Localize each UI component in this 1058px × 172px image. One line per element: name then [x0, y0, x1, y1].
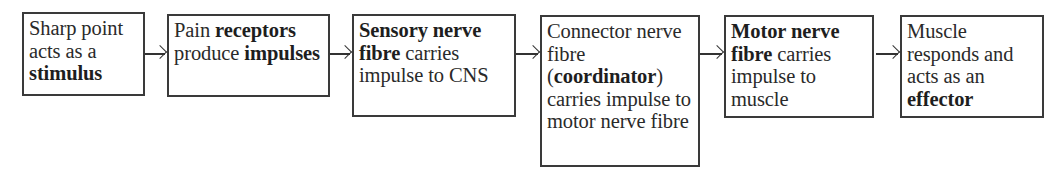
box-text: Muscle responds and acts as an [907, 20, 1013, 87]
box-sensory-nerve: Sensory nerve fibre carries impulse to C… [352, 14, 516, 117]
box-effector: Muscle responds and acts as an effector [900, 15, 1044, 118]
arrow-right-icon [700, 47, 724, 61]
arrow-right-icon [516, 47, 540, 61]
box-stimulus: Sharp point acts as a stimulus [22, 12, 145, 96]
box-text: Sharp point acts as a [29, 17, 123, 62]
box-text-bold: receptors [215, 19, 296, 41]
box-text: Pain [174, 19, 215, 41]
box-text-bold: coordinator [554, 65, 657, 87]
box-receptors: Pain receptors produce impulses [167, 14, 330, 97]
box-text-bold: stimulus [29, 62, 102, 84]
box-motor-nerve: Motor nerve fibre carries impulse to mus… [724, 15, 874, 118]
box-connector-nerve: Connector nerve fibre (coordinator) carr… [540, 15, 700, 167]
box-text-bold: effector [907, 88, 973, 110]
box-text-bold: impulses [244, 42, 320, 64]
arrow-right-icon [876, 47, 900, 61]
box-text: produce [174, 42, 244, 64]
arrow-right-icon [145, 47, 167, 61]
arrow-right-icon [330, 47, 352, 61]
